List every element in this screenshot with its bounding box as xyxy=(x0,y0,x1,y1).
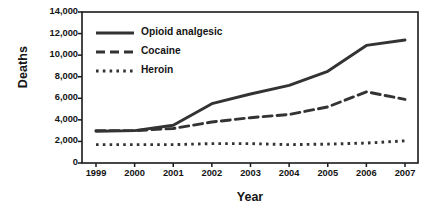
y-tick-label: 0 xyxy=(30,157,78,169)
x-tick-label: 2000 xyxy=(115,168,155,178)
y-axis-title: Deaths xyxy=(16,22,30,112)
y-tick-label-text: 6,000 xyxy=(34,92,78,102)
y-tick-label: 2,000 xyxy=(30,135,78,147)
x-tick-label: 2001 xyxy=(153,168,193,178)
y-tick-label-text: 14,000 xyxy=(34,6,78,16)
legend-label-cocaine: Cocaine xyxy=(141,45,181,56)
axis-lines xyxy=(82,12,418,163)
y-tick-label: 6,000 xyxy=(30,92,78,104)
y-tick-label: 14,000 xyxy=(30,6,78,18)
y-tick-label-text: 4,000 xyxy=(34,114,78,124)
legend-swatches xyxy=(96,33,134,71)
x-tick-label: 2005 xyxy=(308,168,348,178)
y-tick-label-text: 12,000 xyxy=(34,28,78,38)
y-tick-label-text: 10,000 xyxy=(34,49,78,59)
y-tick-label: 8,000 xyxy=(30,71,78,83)
y-tick-label-text: 0 xyxy=(34,157,78,167)
x-tick-label: 2002 xyxy=(192,168,232,178)
y-tick-label: 10,000 xyxy=(30,49,78,61)
chart-figure: Deaths Year 02,0004,0006,0008,00010,0001… xyxy=(0,0,439,218)
y-tick-label: 12,000 xyxy=(30,28,78,40)
legend-label-heroin: Heroin xyxy=(141,64,173,75)
x-tick-label: 1999 xyxy=(76,168,116,178)
series-line-heroin xyxy=(96,141,405,145)
x-axis-title: Year xyxy=(82,190,418,204)
series-line-cocaine xyxy=(96,92,405,131)
x-tick-label: 2003 xyxy=(231,168,271,178)
plot-frame xyxy=(82,12,418,163)
x-tick-label: 2004 xyxy=(269,168,309,178)
x-tick-label: 2007 xyxy=(385,168,425,178)
y-tick-label-text: 8,000 xyxy=(34,71,78,81)
y-tick-label: 4,000 xyxy=(30,114,78,126)
legend-label-opioid-analgesic: Opioid analgesic xyxy=(141,26,223,37)
x-tick-label: 2006 xyxy=(346,168,386,178)
y-tick-label-text: 2,000 xyxy=(34,135,78,145)
